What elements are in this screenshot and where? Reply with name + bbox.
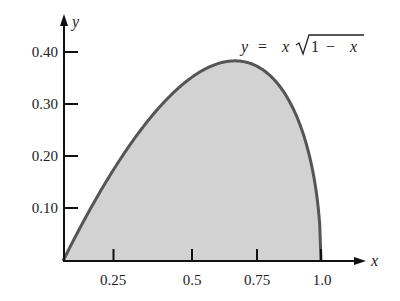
x-axis-label: x xyxy=(370,252,378,269)
equation-x2: x xyxy=(349,38,357,55)
x-tick-label: 0.5 xyxy=(183,272,202,288)
y-axis-label: y xyxy=(70,13,80,31)
x-tick-label: 1.0 xyxy=(313,272,332,288)
x-tick-label: 0.75 xyxy=(244,272,270,288)
equation-equals: = xyxy=(258,38,267,55)
y-axis-arrow-icon xyxy=(60,14,68,26)
y-ticks xyxy=(64,52,78,208)
equation-x: x xyxy=(281,38,289,55)
y-tick-label: 0.40 xyxy=(32,44,58,60)
y-tick-labels: 0.40 0.30 0.20 0.10 xyxy=(32,44,58,216)
equation-minus: − xyxy=(326,38,335,55)
x-tick-label: 0.25 xyxy=(100,272,126,288)
equation-annotation: y = x 1 − x xyxy=(239,35,364,56)
chart: 0.25 0.5 0.75 1.0 0.40 0.30 0.20 0.10 y … xyxy=(0,0,400,301)
y-tick-label: 0.20 xyxy=(32,148,58,164)
equation-one: 1 xyxy=(311,38,319,55)
y-tick-label: 0.10 xyxy=(32,200,58,216)
x-axis-arrow-icon xyxy=(354,257,366,265)
y-tick-label: 0.30 xyxy=(32,96,58,112)
x-tick-labels: 0.25 0.5 0.75 1.0 xyxy=(100,272,332,288)
equation-y: y xyxy=(239,38,249,56)
